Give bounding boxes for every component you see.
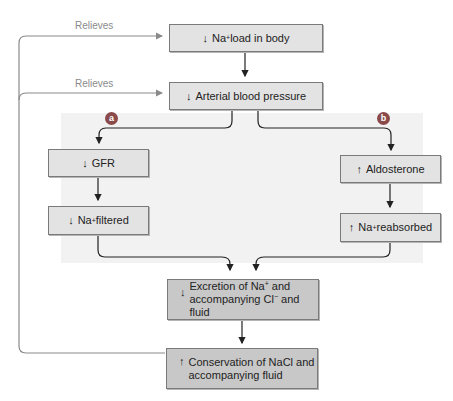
connector-lines bbox=[0, 0, 453, 401]
na-filtered-text-rest: filtered bbox=[96, 214, 129, 227]
relieves-label-top: Relieves bbox=[75, 20, 113, 31]
aldosterone-text: Aldosterone bbox=[366, 163, 425, 176]
decrease-arrow-icon: ↓ bbox=[203, 32, 209, 45]
aldosterone-box: ↑ Aldosterone bbox=[340, 155, 441, 183]
excretion-line2: accompanying Cl bbox=[190, 293, 274, 305]
excretion-text: Excretion of Na+ and accompanying Cl− an… bbox=[190, 280, 319, 319]
na-filtered-box: ↓ Na+ filtered bbox=[48, 206, 149, 235]
gfr-text: GFR bbox=[92, 157, 115, 170]
na-reabsorbed-text: Na bbox=[358, 221, 372, 234]
increase-arrow-icon: ↑ bbox=[179, 355, 185, 368]
excretion-line1-rest: and bbox=[269, 280, 290, 292]
relieves-label-middle: Relieves bbox=[75, 78, 113, 89]
badge-b: b bbox=[377, 112, 390, 125]
decrease-arrow-icon: ↓ bbox=[180, 286, 186, 299]
conservation-text: Conservation of NaCl and accompanying fl… bbox=[189, 356, 315, 382]
na-load-text-rest: load in body bbox=[230, 32, 289, 45]
arterial-bp-box: ↓ Arterial blood pressure bbox=[169, 82, 323, 110]
decrease-arrow-icon: ↓ bbox=[68, 214, 74, 227]
na-filtered-text: Na bbox=[78, 214, 92, 227]
gfr-box: ↓ GFR bbox=[48, 149, 149, 177]
decrease-arrow-icon: ↓ bbox=[82, 157, 88, 170]
na-reabsorbed-text-rest: reabsorbed bbox=[377, 221, 433, 234]
arterial-bp-text: Arterial blood pressure bbox=[195, 90, 306, 103]
na-load-box: ↓ Na+ load in body bbox=[169, 24, 323, 52]
conservation-box: ↑ Conservation of NaCl and accompanying … bbox=[166, 348, 318, 389]
na-reabsorbed-box: ↑ Na+ reabsorbed bbox=[340, 213, 441, 242]
conservation-line1: Conservation of NaCl and bbox=[189, 356, 315, 369]
na-load-text: Na bbox=[212, 32, 226, 45]
conservation-line2: accompanying fluid bbox=[189, 369, 315, 382]
increase-arrow-icon: ↑ bbox=[356, 163, 362, 176]
increase-arrow-icon: ↑ bbox=[349, 221, 355, 234]
decrease-arrow-icon: ↓ bbox=[186, 90, 192, 103]
excretion-line1: Excretion of Na bbox=[190, 280, 265, 292]
badge-a: a bbox=[105, 112, 118, 125]
excretion-box: ↓ Excretion of Na+ and accompanying Cl− … bbox=[167, 279, 319, 320]
